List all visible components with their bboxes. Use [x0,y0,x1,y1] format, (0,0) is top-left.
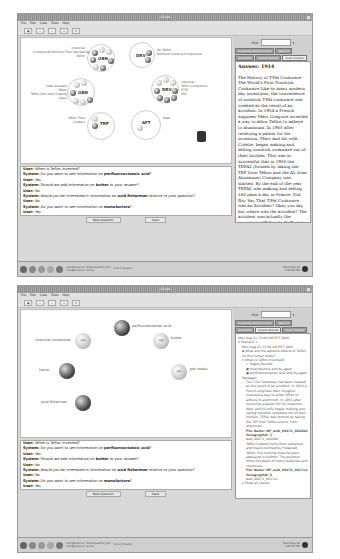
digest-tree[interactable]: Mon Aug 21 13:00 AM EST 2006 ▾ Scenario … [235,333,311,499]
zoom-in-button[interactable]: + [60,28,68,34]
menu-tools[interactable]: Tools [51,293,58,298]
back-button[interactable]: ◀ [24,28,32,34]
concept-ball[interactable] [99,47,105,53]
concept-ball[interactable] [80,99,86,105]
concept-ball[interactable] [137,125,143,131]
find-input[interactable] [261,39,291,46]
concept-graph-canvas[interactable]: OBN chemical Compounds Without Their Der… [20,37,232,164]
close-button[interactable] [306,287,311,292]
concept-ball[interactable] [81,80,87,86]
search-icon[interactable] [47,542,54,549]
cluster-trp[interactable]: TRP [87,112,115,140]
zoom-out-button[interactable]: − [48,28,56,34]
cluster-drv-2[interactable]: DRV [151,75,179,103]
close-button[interactable] [306,15,311,20]
concept-ball[interactable] [170,80,176,86]
browser-icon[interactable] [29,266,36,273]
node-ball[interactable]: AKA [153,333,169,349]
window-titlebar[interactable]: CSI-QA [18,286,312,293]
zoom-out-button[interactable]: − [48,300,56,306]
menu-file[interactable]: File [21,293,26,298]
cluster-obn-1[interactable]: OBN [87,44,115,72]
window-titlebar[interactable]: CSI-QA [18,14,312,21]
concept-ball[interactable] [145,57,151,63]
concept-ball[interactable] [87,97,93,103]
back-button[interactable]: ◀ [24,300,32,306]
zoom-in-button[interactable]: + [60,300,68,306]
menu-edit[interactable]: Edit [30,21,36,26]
refresh-button[interactable]: ↻ [72,28,80,34]
concept-ball[interactable] [171,95,177,101]
concept-link[interactable]: manufacture [104,205,130,209]
refresh-button[interactable]: ↻ [72,300,80,306]
menu-tools[interactable]: Tools [51,21,58,26]
menu-view[interactable]: View [40,21,47,26]
concept-ball[interactable] [157,95,163,101]
menu-edit[interactable]: Edit [30,293,36,298]
tab-contextualized-concept[interactable]: Contextualized Concept [235,320,274,326]
dialogue-log[interactable]: User: When is Teflon invented? System: D… [20,166,232,216]
new-question-button[interactable]: New Question [86,217,121,223]
menu-help[interactable]: Help [62,21,69,26]
cluster-obn-2[interactable]: OBN [67,78,95,106]
network-globe-icon[interactable] [302,266,308,272]
save-button[interactable]: Save [145,217,166,223]
task-item-screen-reader[interactable]: Screen Reader [113,267,132,270]
find-input[interactable] [261,311,291,318]
trash-icon[interactable] [197,131,206,142]
new-question-button[interactable]: New Question [86,491,121,497]
dropdown-arrow-icon[interactable]: ▾ [293,41,295,45]
concept-link[interactable]: butter [96,183,109,187]
dropdown-arrow-icon[interactable]: ▾ [293,313,295,317]
concept-ball[interactable] [164,97,170,103]
search-icon[interactable] [47,266,54,273]
concept-link[interactable]: avid fisherman [118,468,148,472]
terminal-icon[interactable] [56,266,63,273]
concept-ball[interactable] [146,50,152,56]
menu-file[interactable]: File [21,21,26,26]
concept-link[interactable]: perfluorooctanoic acid [104,446,149,450]
concept-ball[interactable] [106,49,112,55]
task-item[interactable]: root@bequest: /aerial [66,269,110,272]
tree-node-question-1[interactable]: ▪ What are the adverse effects of Teflon… [242,349,308,358]
tree-item[interactable]: ▣ perfluorooctanoic acid and by aged [246,371,308,375]
concept-ball[interactable] [100,65,106,71]
tab-aspects[interactable]: Aspects [275,48,292,54]
node-ball[interactable] [114,320,130,336]
info-button[interactable]: i [36,28,44,34]
node-ball[interactable] [75,395,91,411]
concept-link[interactable]: butter [96,457,109,461]
node-ball[interactable]: AKA [171,364,187,380]
concept-ball[interactable] [172,88,178,94]
settings-icon[interactable] [38,542,45,549]
concept-ball[interactable] [74,82,80,88]
cluster-drv-1[interactable]: DRV [129,42,155,68]
concept-link[interactable]: perfluorooctanoic acid [104,172,149,176]
concept-ball[interactable] [92,50,98,56]
task-item-screen-reader[interactable]: Screen Reader [113,543,132,546]
task-item[interactable]: root@bequest: /aerial [66,545,110,548]
node-ball[interactable]: AKA [75,333,91,349]
launcher-icon[interactable] [20,266,27,273]
concept-ball[interactable] [70,90,76,96]
cluster-aft[interactable]: AFT [131,110,161,140]
concept-ball[interactable] [90,57,96,63]
settings-icon[interactable] [38,266,45,273]
info-button[interactable]: i [36,300,44,306]
browser-icon[interactable] [29,542,36,549]
dialogue-log[interactable]: User: When is Teflon invented? System: D… [20,440,232,490]
tree-node-more[interactable]: ▸ Show all results [242,481,308,485]
concept-ball[interactable] [92,116,98,122]
concept-ball[interactable] [73,98,79,104]
save-button[interactable]: Save [145,491,166,497]
menu-help[interactable]: Help [62,293,69,298]
concept-ball[interactable] [92,123,98,129]
concept-ball[interactable] [156,80,162,86]
network-globe-icon[interactable] [302,542,308,548]
answer-panel[interactable]: Answer: 1914 The History of T-Fal Cookwa… [235,61,311,223]
concept-ball[interactable] [108,58,114,64]
launcher-icon[interactable] [20,542,27,549]
terminal-icon[interactable] [56,542,63,549]
menu-view[interactable]: View [40,293,47,298]
concept-link[interactable]: manufacture [104,479,130,483]
